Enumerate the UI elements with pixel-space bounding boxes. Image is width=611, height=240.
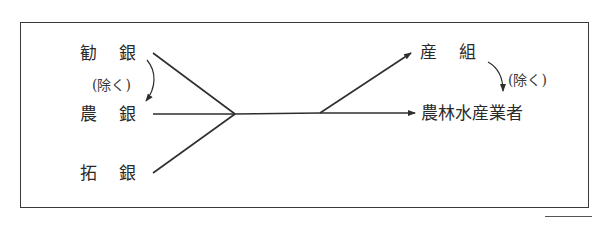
note-exclude-right: (除く) xyxy=(508,72,547,88)
label-sanso: 産組 xyxy=(420,42,498,62)
line-merge-trunk xyxy=(235,113,320,114)
label-norinsuisangyosha: 農林水産業者 xyxy=(421,103,523,123)
exclude-arrow-left xyxy=(146,60,154,101)
label-takugin: 拓銀 xyxy=(80,163,158,183)
label-kangin: 勧銀 xyxy=(80,43,158,63)
line-takugin-merge xyxy=(153,114,235,173)
label-nogin: 農銀 xyxy=(80,104,158,124)
line-kangin-merge xyxy=(153,53,235,114)
arrow-to-sanso xyxy=(320,53,411,113)
page-rule xyxy=(545,216,592,217)
exclude-arrow-right xyxy=(488,62,503,91)
note-exclude-left: (除く) xyxy=(92,77,131,93)
